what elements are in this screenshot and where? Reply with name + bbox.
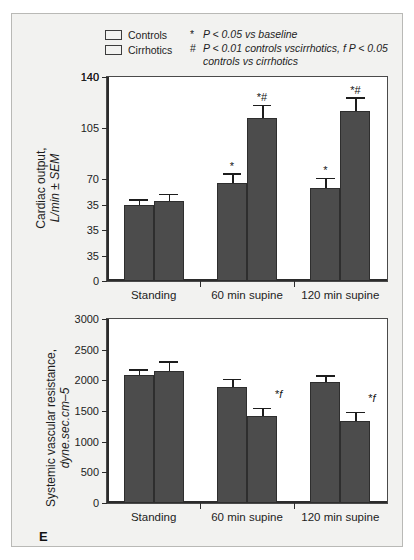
bar-controls-standing (124, 205, 154, 281)
bar-controls-60-min-supine (217, 387, 247, 503)
y-axis-tick (102, 77, 107, 78)
error-bar (325, 179, 327, 188)
x-axis-tick-label: 120 min supine (301, 289, 379, 301)
y-axis-tick (102, 281, 107, 282)
y-axis-title-line2-bottom: dyne.sec.cm–5 (58, 388, 72, 469)
error-bar (232, 380, 234, 387)
error-bar-cap (159, 194, 178, 196)
chart-panel-vascular-resistance: Systemic vascular resistance, dyne.sec.c… (12, 304, 404, 548)
error-bar-cap (316, 375, 335, 377)
error-bar-cap (223, 379, 242, 381)
significance-marker: *f (275, 388, 282, 400)
error-bar (355, 413, 357, 420)
y-axis-tick-label: 105 (81, 122, 99, 134)
y-axis-title-line1-bottom: Systemic vascular resistance, (44, 349, 58, 507)
y-axis-tick (102, 380, 107, 381)
y-axis-tick-label: 500 (81, 466, 99, 478)
plot-area-cardiac-output: 035353570105140140Standing60 min supine*… (106, 76, 388, 282)
y-axis-title-line2: L/min ± SEM (48, 154, 62, 223)
x-axis-tick (200, 281, 201, 287)
bar-cirrhotics-60-min-supine (247, 118, 277, 281)
y-axis-tick (102, 205, 107, 206)
bar-cirrhotics-120-min-supine (340, 111, 370, 281)
y-axis-tick-label: 2500 (75, 344, 99, 356)
error-bar (139, 371, 141, 375)
chart-panel-cardiac-output: Cardiac output, L/min ± SEM 035353570105… (12, 14, 404, 304)
bar-controls-120-min-supine (310, 188, 340, 281)
x-axis-tick-label: 60 min supine (211, 289, 283, 301)
error-bar (139, 201, 141, 205)
error-bar (355, 99, 357, 111)
y-axis-line-bottom (107, 319, 109, 503)
bar-controls-60-min-supine (217, 183, 247, 281)
error-bar-cap (316, 178, 335, 180)
y-axis-title-line1: Cardiac output, (34, 147, 48, 228)
y-axis-tick-label: 35 (87, 199, 99, 211)
bar-cirrhotics-standing (154, 371, 184, 503)
y-axis-tick (102, 319, 107, 320)
significance-marker: * (230, 160, 234, 172)
panel-label: E (39, 529, 48, 544)
y-axis-tick (102, 179, 107, 180)
significance-marker: *f (368, 392, 375, 404)
y-axis-tick-label: 2000 (75, 374, 99, 386)
error-bar (325, 377, 327, 383)
x-axis-tick (294, 503, 295, 509)
y-axis-tick (102, 442, 107, 443)
y-axis-tick (102, 128, 107, 129)
error-bar-cap (346, 97, 365, 99)
y-axis-tick-label: 35 (87, 224, 99, 236)
error-bar (262, 106, 264, 118)
bar-cirrhotics-standing (154, 201, 184, 281)
significance-marker: * (323, 164, 327, 176)
y-axis-tick-label: 70 (87, 173, 99, 185)
x-axis-tick-label: 120 min supine (301, 511, 379, 523)
error-bar-cap (253, 105, 272, 107)
error-bar (262, 409, 264, 416)
y-axis-line-top (107, 77, 109, 281)
y-axis-title-vascular-resistance: Systemic vascular resistance, dyne.sec.c… (44, 328, 72, 528)
significance-marker: *# (350, 84, 360, 96)
y-axis-tick-label: 35 (87, 250, 99, 262)
y-axis-tick-label: 1500 (75, 405, 99, 417)
error-bar-cap (253, 408, 272, 410)
significance-marker: *# (257, 91, 267, 103)
x-axis-tick (294, 281, 295, 287)
y-axis-tick-label: 0 (93, 275, 99, 287)
y-axis-tick (102, 472, 107, 473)
y-axis-tick (102, 256, 107, 257)
error-bar-cap (129, 199, 148, 201)
x-axis-tick (200, 503, 201, 509)
x-axis-tick-label: 60 min supine (211, 511, 283, 523)
error-bar-cap (223, 173, 242, 175)
error-bar (169, 363, 171, 372)
y-axis-tick-label: 0 (93, 497, 99, 509)
y-axis-tick (102, 503, 107, 504)
bar-cirrhotics-60-min-supine (247, 416, 277, 503)
bar-cirrhotics-120-min-supine (340, 421, 370, 503)
y-axis-tick (102, 230, 107, 231)
y-axis-tick-label: 140 (81, 71, 99, 83)
x-axis-tick-label: Standing (131, 511, 176, 523)
error-bar (232, 175, 234, 184)
error-bar-cap (159, 361, 178, 363)
bar-controls-standing (124, 375, 154, 503)
y-axis-title-cardiac-output: Cardiac output, L/min ± SEM (34, 108, 62, 268)
error-bar (169, 195, 171, 201)
plot-area-vascular-resistance: 050010001500200025003000Standing60 min s… (106, 318, 388, 504)
y-axis-tick-label: 1000 (75, 436, 99, 448)
y-axis-tick (102, 350, 107, 351)
x-axis-tick-label: Standing (131, 289, 176, 301)
y-axis-tick-label: 3000 (75, 313, 99, 325)
y-axis-tick (102, 411, 107, 412)
error-bar-cap (129, 369, 148, 371)
figure-frame: Controls Cirrhotics * P < 0.05 vs baseli… (11, 13, 403, 547)
error-bar-cap (346, 412, 365, 414)
bar-controls-120-min-supine (310, 382, 340, 503)
